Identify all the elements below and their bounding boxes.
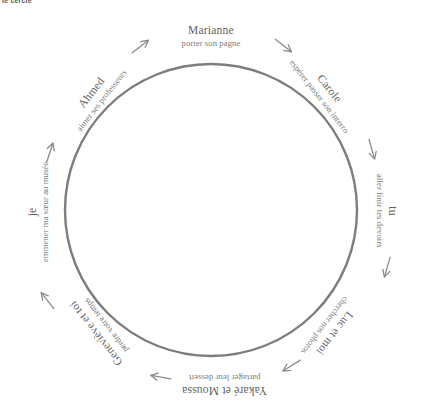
node-subject-label: tu — [385, 174, 399, 248]
arrow-marianne-to-carole — [273, 36, 294, 54]
node-tu[interactable]: tualler finir tes devoirs — [375, 174, 399, 248]
node-verb-label: emmener ma sœur au musée — [40, 162, 50, 262]
arrow-luc-to-yakare — [281, 357, 302, 374]
flow-circle — [65, 64, 357, 356]
node-je[interactable]: jeemmener ma sœur au musée — [26, 162, 50, 262]
node-subject-label: Marianne — [182, 24, 241, 38]
arrow-yakare-to-genevieve — [150, 372, 171, 383]
circle-diagram-svg — [0, 0, 423, 416]
node-verb-label: partager leur dessert — [182, 373, 267, 383]
diagram-canvas: le cercle Marianneporter son pagneCarole… — [0, 0, 423, 416]
node-yakare-et-moussa[interactable]: Yakaré et Moussapartager leur dessert — [182, 373, 267, 397]
arrow-tu-to-luc — [381, 256, 394, 278]
node-verb-label: porter son pagne — [182, 38, 241, 48]
node-subject-label: Yakaré et Moussa — [182, 383, 267, 397]
node-subject-label: je — [26, 162, 40, 262]
arrow-genevieve-to-je — [38, 290, 56, 311]
arrow-ahmed-to-marianne — [130, 37, 151, 55]
node-verb-label: aller finir tes devoirs — [375, 174, 385, 248]
arrow-je-to-ahmed — [43, 142, 56, 164]
arrow-carole-to-tu — [366, 138, 379, 160]
node-marianne[interactable]: Marianneporter son pagne — [182, 24, 241, 48]
